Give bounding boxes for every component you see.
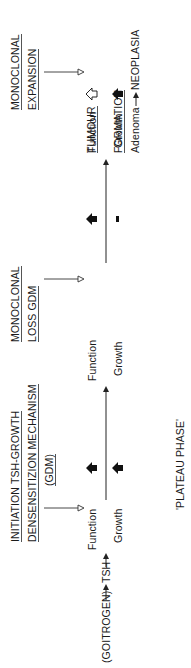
stage3-growth-up-arrow-icon — [112, 88, 123, 100]
stage2-growth-neutral-bar-icon — [116, 216, 119, 222]
stage3-function-hollow-up-arrow-icon — [86, 88, 97, 100]
stage2-function-label: Function — [87, 340, 98, 381]
stage1-hollow-arrow-icon — [44, 505, 84, 511]
stage2-function-up-arrow-icon — [86, 213, 97, 225]
stage2-to-stage3-arrow-icon — [103, 159, 109, 263]
diagram-arrows — [0, 0, 191, 668]
plateau-phase-label: 'PLATEAU PHASE' — [175, 419, 186, 510]
tsh-label: TSH — [101, 562, 112, 583]
stage3-hollow-arrow-icon — [44, 69, 84, 75]
stage2-hollow-arrow-icon — [44, 276, 84, 282]
stage3-growth-label: Growth — [113, 114, 124, 148]
goitrogen-label: (GOITROGEN) — [101, 591, 112, 663]
stage2-growth-label: Growth — [113, 342, 124, 376]
rotated-diagram: INITIATION TSH-GROWTH DENSENSITIZION MEC… — [0, 0, 191, 668]
stage1-growth-up-arrow-icon — [112, 462, 123, 474]
stage1-to-stage2-arrow-icon — [103, 386, 109, 500]
stage3-function-label: Function — [87, 112, 98, 153]
stage1-growth-label: Growth — [113, 509, 124, 543]
adenoma-to-neoplasia-arrow-icon — [133, 92, 139, 106]
stage1-function-label: Function — [87, 509, 98, 550]
stage1-function-up-arrow-icon — [86, 462, 97, 474]
